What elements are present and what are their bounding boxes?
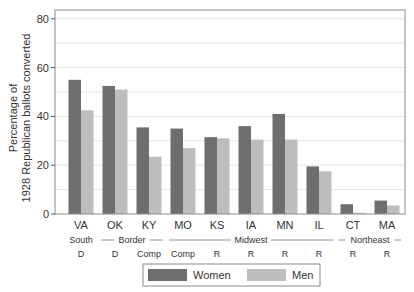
bar-men-mn [285,140,298,214]
bar-men-ks [217,138,230,214]
party-label: Comp [171,249,195,259]
region-label: Midwest [234,235,268,245]
y-title-line-1: Percentage of [7,83,19,152]
bar-men-ia [251,140,264,214]
y-title-line-2: 1928 Republican ballots converted [20,34,32,203]
y-tick-label: 40 [37,110,49,122]
party-label: Comp [137,249,161,259]
x-tick-label: KS [210,219,225,231]
x-axis-labels: VAOKKYMOKSIAMNILCTMA [74,219,396,231]
party-label: D [112,249,119,259]
y-axis: 020406080 [37,13,55,220]
bars [69,80,400,214]
party-label: R [350,249,357,259]
bar-men-va [81,110,94,214]
bar-men-il [319,171,332,214]
y-axis-title: Percentage of1928 Republican ballots con… [7,34,32,203]
region-label: Northeast [350,235,390,245]
bar-women-va [69,80,82,214]
bar-women-ia [239,126,252,214]
party-label: D [78,249,85,259]
x-tick-label: KY [142,219,157,231]
bar-women-ok [103,86,116,214]
bar-women-ct [341,204,354,214]
x-tick-label: MA [379,219,396,231]
legend: WomenMen [143,264,320,286]
legend-label-men: Men [292,269,313,281]
legend-swatch-women [148,269,187,281]
x-tick-label: MN [276,219,293,231]
bar-women-mn [273,114,286,214]
bar-men-ky [149,157,162,214]
x-tick-label: OK [107,219,124,231]
x-tick-label: IA [246,219,257,231]
bar-women-ks [205,137,218,214]
bar-chart: 020406080 Percentage of1928 Republican b… [0,0,414,292]
party-labels: DDCompCompRRRRRR [78,249,391,259]
party-label: R [282,249,289,259]
bar-men-ok [115,90,128,214]
party-label: R [316,249,323,259]
bar-men-mo [183,148,196,214]
bar-women-ky [137,127,150,214]
bar-men-ma [387,205,400,214]
region-labels: SouthBorderMidwestNortheast [69,235,401,245]
party-label: R [384,249,391,259]
bar-women-mo [171,129,184,214]
y-tick-label: 60 [37,62,49,74]
legend-swatch-men [247,269,286,281]
y-tick-label: 80 [37,13,49,25]
y-tick-label: 0 [43,208,49,220]
bar-women-il [307,166,320,214]
y-tick-label: 20 [37,159,49,171]
x-tick-label: MO [174,219,192,231]
region-label: South [69,235,93,245]
x-tick-label: CT [346,219,361,231]
x-tick-label: IL [314,219,323,231]
legend-label-women: Women [193,269,231,281]
x-tick-label: VA [74,219,89,231]
party-label: R [214,249,221,259]
region-label: Border [118,235,145,245]
party-label: R [248,249,255,259]
bar-women-ma [375,201,388,214]
